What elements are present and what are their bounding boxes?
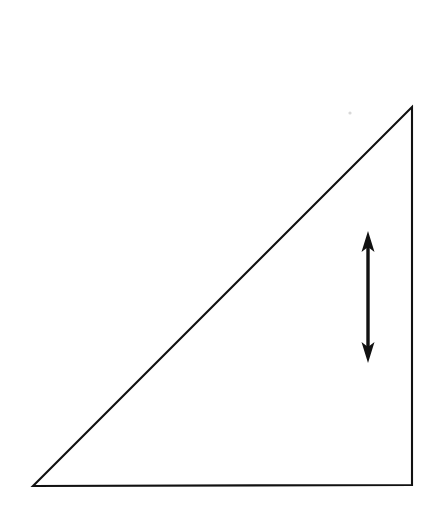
figure-canvas: Right triangle with vertical double-head… <box>0 0 443 514</box>
scan-speck-artifact <box>348 111 351 114</box>
figure-background <box>0 0 443 514</box>
geometry-figure <box>0 0 443 514</box>
